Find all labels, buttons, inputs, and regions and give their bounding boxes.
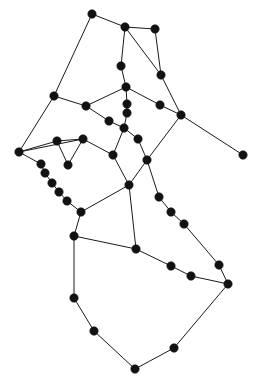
graph-node: [215, 261, 223, 269]
graph-node: [177, 111, 185, 119]
graph-node: [151, 25, 159, 33]
graph-edge: [191, 276, 228, 284]
graph-node: [79, 135, 87, 143]
graph-edge: [54, 14, 92, 96]
graph-node: [63, 197, 71, 205]
graph-node: [48, 179, 56, 187]
graph-node: [88, 10, 96, 18]
graph-edge: [92, 14, 125, 27]
graph-node: [117, 62, 125, 70]
graph-node: [77, 208, 85, 216]
graph-edge: [147, 115, 181, 160]
graph-node: [224, 280, 232, 288]
graph-node: [239, 151, 247, 159]
graph-edge: [129, 185, 136, 249]
graph-edge: [113, 155, 129, 185]
graph-edge: [121, 27, 125, 66]
graph-edge: [125, 27, 155, 29]
graph-node: [64, 161, 72, 169]
graph-node: [187, 272, 195, 280]
graph-figure: [0, 0, 258, 383]
node-layer: [15, 10, 247, 373]
graph-edge: [74, 298, 94, 331]
graph-edge: [94, 331, 135, 369]
graph-node: [121, 23, 129, 31]
graph-node: [134, 135, 142, 143]
graph-node: [125, 181, 133, 189]
graph-edge: [19, 139, 83, 152]
graph-node: [180, 220, 188, 228]
graph-node: [170, 344, 178, 352]
graph-edge: [174, 284, 228, 348]
graph-node: [109, 151, 117, 159]
graph-node: [155, 193, 163, 201]
graph-node: [167, 262, 175, 270]
graph-edge: [161, 75, 181, 115]
graph-node: [132, 245, 140, 253]
graph-node: [120, 124, 128, 132]
graph-canvas: [0, 0, 258, 383]
graph-node: [90, 327, 98, 335]
graph-node: [50, 92, 58, 100]
graph-node: [167, 208, 175, 216]
graph-edge: [136, 249, 171, 266]
graph-edge: [54, 96, 86, 106]
graph-node: [41, 169, 49, 177]
graph-edge: [135, 348, 174, 369]
graph-edge: [83, 139, 113, 155]
graph-edge: [147, 160, 159, 197]
graph-node: [156, 101, 164, 109]
edge-layer: [19, 14, 243, 369]
graph-node: [157, 71, 165, 79]
graph-node: [105, 117, 113, 125]
graph-edge: [184, 224, 219, 265]
graph-edge: [68, 139, 83, 165]
graph-node: [143, 156, 151, 164]
graph-node: [82, 102, 90, 110]
graph-edge: [74, 236, 136, 249]
graph-edge: [86, 87, 126, 106]
graph-node: [53, 137, 61, 145]
graph-node: [15, 148, 23, 156]
graph-node: [70, 232, 78, 240]
graph-node: [123, 100, 131, 108]
graph-edge: [81, 185, 129, 212]
graph-node: [131, 365, 139, 373]
graph-node: [55, 188, 63, 196]
graph-node: [123, 109, 131, 117]
graph-edge: [129, 160, 147, 185]
graph-node: [70, 294, 78, 302]
graph-edge: [181, 115, 243, 155]
graph-node: [122, 83, 130, 91]
graph-node: [37, 160, 45, 168]
